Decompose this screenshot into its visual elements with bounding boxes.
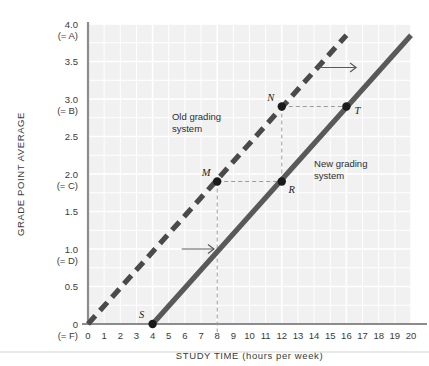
x-tick-label-2: 2 [118, 330, 123, 341]
annotation-new-grading-system-line1: New grading [314, 158, 367, 169]
data-point-label-s: S [139, 309, 145, 320]
y-tick-label-0: 0 [73, 319, 78, 330]
y-tick-label-1-0: 1.0 [65, 244, 78, 255]
chart-figure: SMNRTOld gradingsystemNew gradingsystem4… [0, 0, 429, 366]
y-tick-grade-C: (= C) [57, 180, 78, 191]
x-tick-label-20: 20 [406, 330, 417, 341]
y-axis-title: GRADE POINT AVERAGE [15, 112, 26, 236]
data-point-n[interactable] [278, 102, 286, 110]
x-tick-label-15: 15 [325, 330, 336, 341]
y-tick-grade-F: (= F) [58, 330, 78, 341]
y-tick-label-3-5: 3.5 [65, 56, 78, 67]
x-tick-label-11: 11 [261, 330, 271, 341]
x-tick-label-9: 9 [231, 330, 236, 341]
x-tick-label-7: 7 [198, 330, 203, 341]
data-point-m[interactable] [213, 177, 221, 185]
x-tick-label-12: 12 [277, 330, 288, 341]
x-tick-label-17: 17 [357, 330, 368, 341]
y-tick-label-2-0: 2.0 [65, 169, 78, 180]
annotation-old-grading-system-line1: Old grading [172, 111, 221, 122]
x-tick-label-13: 13 [293, 330, 304, 341]
data-point-r[interactable] [278, 177, 286, 185]
x-tick-label-1: 1 [102, 330, 107, 341]
x-tick-label-3: 3 [134, 330, 139, 341]
data-point-t[interactable] [342, 102, 350, 110]
x-tick-label-5: 5 [166, 330, 171, 341]
y-tick-label-4-0: 4.0 [65, 19, 78, 30]
x-tick-label-8: 8 [215, 330, 220, 341]
grade-point-average-vs-study-time-chart: SMNRTOld gradingsystemNew gradingsystem4… [0, 0, 429, 366]
x-tick-label-0: 0 [85, 330, 90, 341]
data-point-label-m: M [201, 167, 212, 178]
annotation-old-grading-system-line2: system [172, 123, 202, 134]
annotation-new-grading-system-line2: system [314, 170, 344, 181]
data-point-label-r: R [288, 184, 296, 195]
y-tick-label-0-5: 0.5 [65, 281, 78, 292]
x-tick-label-16: 16 [341, 330, 352, 341]
y-tick-grade-A: (= A) [58, 30, 78, 41]
y-tick-label-1-5: 1.5 [65, 206, 78, 217]
y-tick-label-3-0: 3.0 [65, 94, 78, 105]
data-point-label-n: N [266, 92, 275, 103]
data-point-s[interactable] [148, 320, 156, 328]
y-tick-grade-B: (= B) [57, 105, 78, 116]
y-tick-grade-D: (= D) [57, 255, 78, 266]
x-tick-label-10: 10 [244, 330, 255, 341]
x-tick-label-6: 6 [182, 330, 187, 341]
x-tick-label-4: 4 [150, 330, 155, 341]
y-tick-label-2-5: 2.5 [65, 131, 78, 142]
x-tick-label-14: 14 [309, 330, 320, 341]
x-tick-label-19: 19 [390, 330, 401, 341]
x-tick-label-18: 18 [373, 330, 384, 341]
